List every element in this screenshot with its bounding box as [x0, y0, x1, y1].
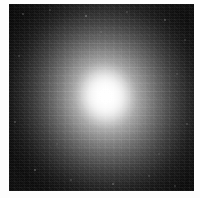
image-caption — [0, 0, 1, 1]
screenshot-root: diffuse elliptical nebulous object with … — [0, 0, 200, 198]
edge-vignette-layer — [9, 4, 194, 191]
astronomical-image-plate: diffuse elliptical nebulous object with … — [9, 4, 194, 191]
